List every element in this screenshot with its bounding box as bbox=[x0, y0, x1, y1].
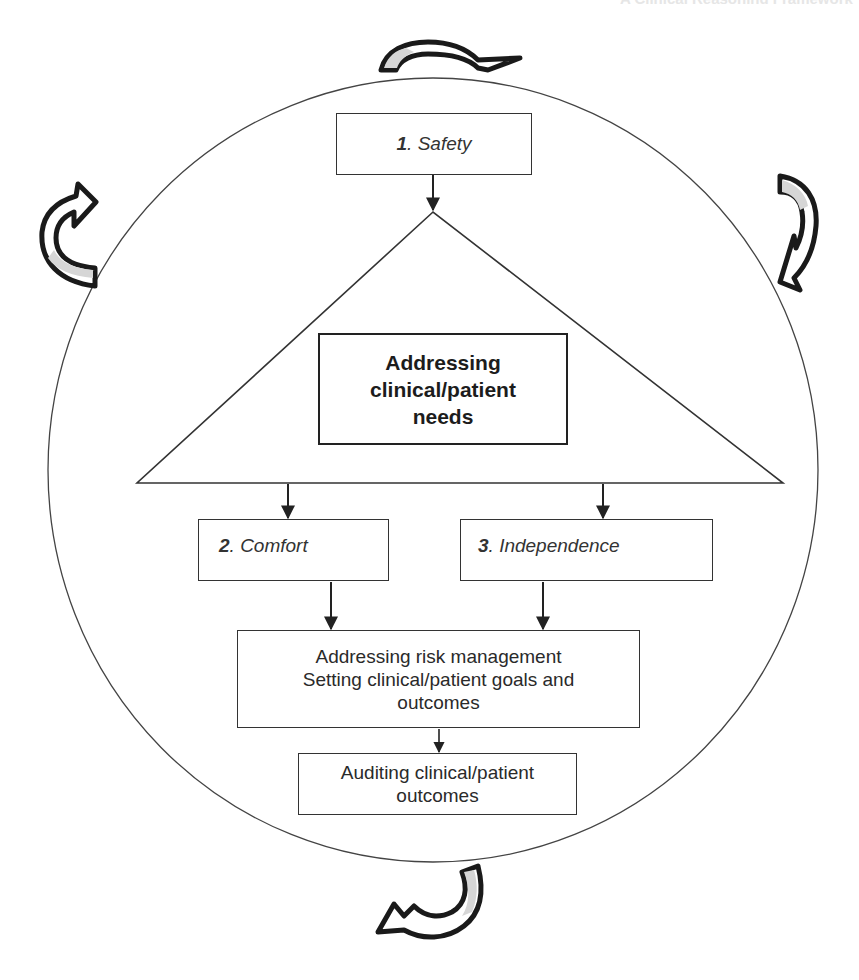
risk-management-box: Addressing risk management Setting clini… bbox=[237, 630, 640, 728]
auditing-line-1: Auditing clinical/patient bbox=[341, 761, 534, 784]
risk-line-3: outcomes bbox=[397, 691, 479, 714]
auditing-box: Auditing clinical/patient outcomes bbox=[298, 753, 577, 815]
cycle-arrow-bottom-icon bbox=[378, 866, 481, 937]
comfort-number: 2 bbox=[219, 535, 230, 556]
independence-number: 3 bbox=[478, 535, 489, 556]
cycle-arrow-right-icon bbox=[780, 176, 816, 290]
safety-number: 1 bbox=[397, 133, 408, 154]
cycle-arrow-left-icon bbox=[42, 184, 96, 286]
core-line-3: needs bbox=[413, 403, 474, 430]
independence-box: 3. Independence bbox=[460, 519, 713, 581]
risk-line-2: Setting clinical/patient goals and bbox=[303, 668, 574, 691]
core-line-1: Addressing bbox=[385, 349, 501, 376]
independence-text: . Independence bbox=[489, 535, 620, 556]
core-line-2: clinical/patient bbox=[370, 376, 516, 403]
clinical-needs-box: Addressing clinical/patient needs bbox=[318, 333, 568, 445]
comfort-text: . Comfort bbox=[230, 535, 308, 556]
safety-text: . Safety bbox=[407, 133, 471, 154]
cycle-arrow-top-icon bbox=[381, 42, 520, 70]
comfort-box: 2. Comfort bbox=[198, 519, 389, 581]
safety-box: 1. Safety bbox=[336, 113, 532, 175]
auditing-line-2: outcomes bbox=[396, 784, 478, 807]
safety-label: 1. Safety bbox=[397, 133, 472, 155]
independence-label: 3. Independence bbox=[478, 535, 620, 557]
risk-line-1: Addressing risk management bbox=[315, 645, 561, 668]
comfort-label: 2. Comfort bbox=[219, 535, 308, 557]
